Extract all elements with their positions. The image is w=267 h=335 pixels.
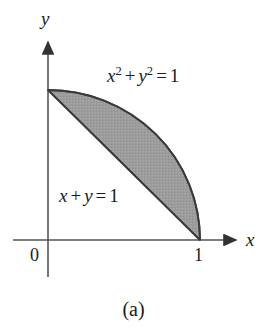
figure-caption: (a): [0, 298, 267, 321]
origin-tick-label: 0: [30, 245, 39, 266]
circle-eq-value: 1: [170, 65, 180, 86]
line-eq-equals: =: [93, 185, 110, 206]
y-axis-label: y: [41, 8, 49, 30]
diagram-canvas: [0, 0, 267, 335]
line-eq-value: 1: [109, 185, 119, 206]
circle-eq-plus: +: [122, 65, 139, 86]
figure-container: x2+y2=1 x+y=1 y x 0 1 (a): [0, 0, 267, 335]
circle-eq-equals: =: [153, 65, 170, 86]
circle-eq-exp-x: 2: [115, 64, 121, 78]
line-eq-plus: +: [67, 185, 84, 206]
circle-eq-var-y: y: [138, 65, 146, 86]
x-tick-label-one: 1: [194, 245, 203, 266]
line-eq-var-y: y: [84, 185, 92, 206]
line-equation-label: x+y=1: [59, 186, 119, 205]
x-axis-label: x: [246, 229, 254, 251]
circle-equation-label: x2+y2=1: [107, 66, 179, 85]
